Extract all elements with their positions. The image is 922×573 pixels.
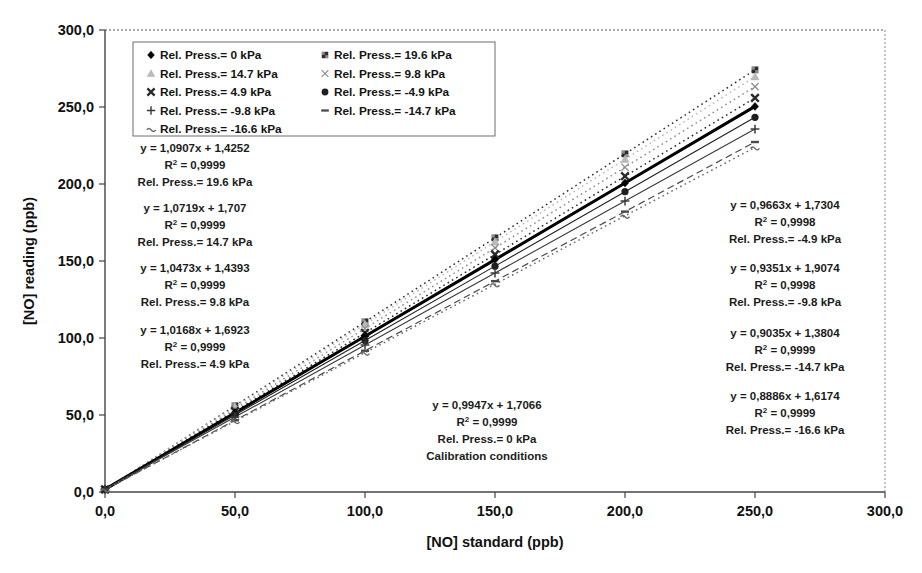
annotation-pressure: Rel. Press.= -14.7 kPa <box>726 361 845 373</box>
annotation-pressure: Rel. Press.= -16.6 kPa <box>726 424 845 436</box>
data-point-circle-filled <box>491 263 498 270</box>
annotation-equation: y = 0,9035x + 1,3804 <box>730 327 840 339</box>
x-axis-title: [NO] standard (ppb) <box>427 534 564 550</box>
annotation-pressure: Rel. Press.= 19.6 kPa <box>138 176 253 188</box>
data-point-square-filled <box>322 52 328 58</box>
data-point-dash <box>491 280 499 282</box>
data-point-x-cross <box>751 83 758 90</box>
annotation-eq-4-9: y = 1,0168x + 1,6923R2 = 0,9999Rel. Pres… <box>140 324 249 370</box>
annotation-eq-m16-6: y = 0,8886x + 1,6174R2 = 0,9999Rel. Pres… <box>726 390 845 436</box>
annotation-r2: R2 = 0,9999 <box>164 218 225 231</box>
annotation-equation: y = 0,9663x + 1,7304 <box>730 199 840 211</box>
annotation-equation: y = 1,0473x + 1,4393 <box>140 262 249 274</box>
legend-item-label: Rel. Press.= -14.7 kPa <box>334 104 456 118</box>
annotation-equation: y = 1,0719x + 1,707 <box>144 202 247 214</box>
legend-item[interactable]: Rel. Press.= 9.8 kPa <box>322 67 446 81</box>
legend-item-label: Rel. Press.= -9.8 kPa <box>160 104 276 118</box>
x-tick-label: 200,0 <box>607 503 643 519</box>
annotation-eq-19-6: y = 1,0907x + 1,4252R2 = 0,9999Rel. Pres… <box>138 142 253 188</box>
annotation-r2: R2 = 0,9998 <box>754 215 816 228</box>
data-point-bold-x <box>751 94 759 102</box>
trendline-8 <box>105 147 755 489</box>
annotation-equation: y = 1,0168x + 1,6923 <box>140 324 249 336</box>
legend-item[interactable]: Rel. Press.= -14.7 kPa <box>321 104 456 118</box>
annotation-equation: y = 0,8886x + 1,6174 <box>730 390 840 402</box>
y-tick-label: 150,0 <box>58 253 94 269</box>
x-tick-label: 250,0 <box>737 503 773 519</box>
annotation-r2: R2 = 0,9998 <box>754 278 816 291</box>
annotation-equation: y = 0,9351x + 1,9074 <box>730 262 840 274</box>
legend-item-label: Rel. Press.= -16.6 kPa <box>160 122 282 136</box>
annotation-pressure: Rel. Press.= -4.9 kPa <box>729 233 842 245</box>
data-point-tilde-dash <box>491 284 500 287</box>
x-tick-label: 50,0 <box>221 503 249 519</box>
annotation-pressure: Rel. Press.= 4.9 kPa <box>141 358 250 370</box>
annotation-pressure: Rel. Press.= -9.8 kPa <box>729 296 842 308</box>
annotation-r2: R2 = 0,9999 <box>754 343 815 356</box>
annotation-pressure: Rel. Press.= 14.7 kPa <box>138 236 253 248</box>
annotation-eq-m9-8: y = 0,9351x + 1,9074R2 = 0,9998Rel. Pres… <box>729 262 842 308</box>
y-tick-label: 100,0 <box>58 330 94 346</box>
legend-item-label: Rel. Press.= 19.6 kPa <box>334 48 452 62</box>
legend-item[interactable]: Rel. Press.= -16.6 kPa <box>147 122 282 136</box>
legend-item[interactable]: Rel. Press.= 19.6 kPa <box>322 48 452 62</box>
legend-item-label: Rel. Press.= 0 kPa <box>160 48 262 62</box>
legend: Rel. Press.= 0 kPaRel. Press.= 19.6 kPaR… <box>133 42 495 136</box>
annotation-r2: R2 = 0,9999 <box>456 415 517 428</box>
legend-item[interactable]: Rel. Press.= 4.9 kPa <box>147 85 271 99</box>
data-point-x-cross <box>621 164 628 171</box>
x-tick-label: 0,0 <box>95 503 115 519</box>
equation-annotations: y = 1,0907x + 1,4252R2 = 0,9999Rel. Pres… <box>138 142 845 462</box>
annotation-eq-m4-9: y = 0,9663x + 1,7304R2 = 0,9998Rel. Pres… <box>729 199 842 245</box>
y-tick-label: 300,0 <box>58 22 94 38</box>
y-tick-label: 200,0 <box>58 176 94 192</box>
data-point-dash <box>621 210 629 212</box>
y-axis-title: [NO] reading (ppb) <box>21 197 37 325</box>
x-tick-label: 100,0 <box>347 503 383 519</box>
legend-item[interactable]: Rel. Press.= 14.7 kPa <box>147 67 278 81</box>
annotation-equation: y = 1,0907x + 1,4252 <box>140 142 249 154</box>
x-tick-label: 150,0 <box>477 503 513 519</box>
annotation-eq-m14-7: y = 0,9035x + 1,3804R2 = 0,9999Rel. Pres… <box>726 327 845 373</box>
data-point-plus <box>621 197 630 206</box>
data-point-dash <box>321 109 329 111</box>
annotation-eq-0: y = 0,9947x + 1,7066R2 = 0,9999Rel. Pres… <box>426 399 547 462</box>
annotation-equation: y = 0,9947x + 1,7066 <box>432 399 541 411</box>
annotation-note: Calibration conditions <box>426 450 547 462</box>
data-point-plus <box>491 269 500 278</box>
legend-item-label: Rel. Press.= 9.8 kPa <box>334 67 446 81</box>
x-tick-label: 300,0 <box>867 503 903 519</box>
y-tick-label: 50,0 <box>66 407 94 423</box>
annotation-r2: R2 = 0,9999 <box>164 158 225 171</box>
legend-item-label: Rel. Press.= 4.9 kPa <box>160 85 272 99</box>
data-point-tilde-dash <box>621 215 630 218</box>
legend-item[interactable]: Rel. Press.= -4.9 kPa <box>322 85 450 99</box>
legend-item-label: Rel. Press.= -4.9 kPa <box>334 85 450 99</box>
legend-item[interactable]: Rel. Press.= -9.8 kPa <box>147 104 276 118</box>
chart-canvas: 0,050,0100,0150,0200,0250,0300,00,050,01… <box>0 0 922 573</box>
legend-item-label: Rel. Press.= 14.7 kPa <box>160 67 278 81</box>
annotation-r2: R2 = 0,9999 <box>754 406 815 419</box>
y-tick-label: 250,0 <box>58 99 94 115</box>
data-point-circle-filled <box>751 114 758 121</box>
annotation-r2: R2 = 0,9999 <box>164 278 225 291</box>
data-point-plus <box>751 125 760 134</box>
data-point-circle-filled <box>322 89 329 96</box>
data-point-triangle <box>751 73 759 80</box>
data-point-circle-filled <box>621 188 628 195</box>
annotation-pressure: Rel. Press.= 0 kPa <box>438 433 537 445</box>
chart-figure: 0,050,0100,0150,0200,0250,0300,00,050,01… <box>0 0 922 573</box>
data-point-dash <box>751 141 759 143</box>
annotation-eq-9-8: y = 1,0473x + 1,4393R2 = 0,9999Rel. Pres… <box>140 262 249 308</box>
annotation-pressure: Rel. Press.= 9.8 kPa <box>141 296 250 308</box>
y-tick-label: 0,0 <box>74 484 94 500</box>
annotation-eq-14-7: y = 1,0719x + 1,707R2 = 0,9999Rel. Press… <box>138 202 253 248</box>
annotation-r2: R2 = 0,9999 <box>164 340 225 353</box>
legend-item[interactable]: Rel. Press.= 0 kPa <box>148 48 262 62</box>
